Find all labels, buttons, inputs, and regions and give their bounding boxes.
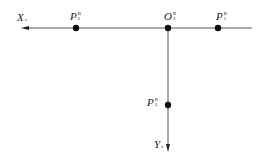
point-p1-dot <box>215 25 221 31</box>
point-p2-label-base: P <box>70 10 77 22</box>
y-axis-label: Y s <box>154 139 163 150</box>
point-o2-label-base: O <box>164 10 172 22</box>
x-axis-arrow-icon <box>21 26 29 30</box>
point-o2-label-sub: 2 <box>173 16 176 21</box>
x-axis-label-sub: s <box>25 17 27 22</box>
point-o2-dot <box>165 25 171 31</box>
point-p3-dot <box>165 102 171 108</box>
point-p2-label: PR2 <box>70 11 81 22</box>
x-axis-label: X s <box>17 12 27 23</box>
point-p3-label: PR3 <box>147 97 158 108</box>
point-o2-label: OR2 <box>164 11 176 22</box>
y-axis-label-sub: s <box>161 144 163 149</box>
point-p1-label: PR1 <box>216 11 227 22</box>
point-p1-label-base: P <box>216 10 223 22</box>
coordinate-diagram <box>0 0 266 157</box>
point-p3-label-base: P <box>147 96 154 108</box>
y-axis-arrow-icon <box>166 144 170 152</box>
point-p2-dot <box>73 25 79 31</box>
point-p2-label-sub: 2 <box>78 16 81 21</box>
y-axis-label-base: Y <box>154 138 160 150</box>
point-p3-label-sub: 3 <box>155 102 158 107</box>
point-p1-label-sub: 1 <box>224 16 227 21</box>
x-axis-label-base: X <box>17 11 24 23</box>
